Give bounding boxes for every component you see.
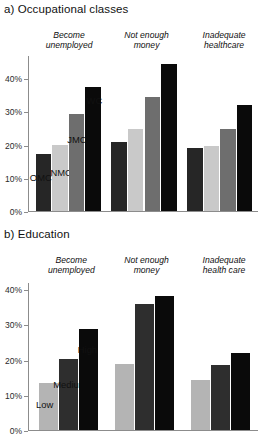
series-label-low: Low (36, 400, 53, 409)
y-axis-tick (24, 112, 28, 113)
bar-group (191, 283, 256, 430)
bar-jmc-0: JMC (69, 114, 84, 211)
bar-omc-1 (111, 142, 126, 211)
group-header: Become unemployed (30, 255, 112, 276)
bar-medium-0: Medium (59, 359, 78, 430)
bar-nmc-2 (204, 146, 219, 211)
y-axis-tick-label: 30% (5, 320, 22, 330)
bar-nmc-0: NMC (52, 145, 67, 211)
y-axis-tick (24, 179, 28, 180)
bar-low-1 (115, 364, 134, 430)
group-header: Not enough money (106, 255, 188, 276)
series-label-jmc: JMC (67, 135, 86, 144)
bar-high-0: High (79, 329, 98, 431)
bar-groups: LowMediumHigh (29, 283, 256, 430)
group-header: Inadequate health care (183, 255, 260, 276)
bar-groups: OMCNMCJMCWC (29, 56, 256, 211)
plot-area-b: 0%10%20%30%40%LowMediumHighBecome unempl… (28, 283, 256, 431)
y-axis-tick-label: 10% (5, 174, 22, 184)
y-axis-tick (24, 146, 28, 147)
bar-omc-2 (187, 148, 202, 211)
bar-low-2 (191, 380, 210, 430)
bar-medium-2 (211, 365, 230, 430)
series-label-wc: WC (87, 96, 103, 105)
y-axis-tick-label: 20% (5, 356, 22, 366)
y-axis-tick-label: 20% (5, 141, 22, 151)
x-axis-a (28, 211, 258, 212)
bar-jmc-2 (220, 129, 235, 211)
bar-omc-0: OMC (36, 154, 51, 211)
chart-panel-education: b) Education 0%10%20%30%40%LowMediumHigh… (0, 225, 260, 443)
panel-title-a: a) Occupational classes (4, 3, 128, 15)
x-axis-b (28, 430, 258, 431)
y-axis-tick (24, 79, 28, 80)
plot-area-a: 0%10%20%30%40%OMCNMCJMCWCBecome unemploy… (28, 56, 256, 212)
bar-high-2 (231, 353, 250, 430)
series-label-high: High (78, 345, 97, 354)
y-axis-tick (24, 361, 28, 362)
bar-jmc-1 (145, 97, 160, 211)
series-label-omc: OMC (30, 173, 52, 182)
y-axis-tick-label: 0% (10, 207, 22, 217)
group-header: Not enough money (106, 30, 188, 51)
y-axis-tick-label: 40% (5, 74, 22, 84)
bar-nmc-1 (128, 129, 143, 211)
group-header: Become unemployed (28, 30, 110, 51)
y-axis-tick (24, 325, 28, 326)
y-axis-tick-label: 0% (10, 426, 22, 436)
bar-group (111, 56, 180, 211)
y-axis-tick (24, 212, 28, 213)
y-axis-tick-label: 40% (5, 285, 22, 295)
bar-group: LowMediumHigh (39, 283, 104, 430)
bar-group (115, 283, 180, 430)
group-header: Inadequate healthcare (183, 30, 260, 51)
bar-wc-2 (237, 105, 252, 211)
bar-wc-1 (161, 64, 176, 211)
y-axis-tick-label: 10% (5, 391, 22, 401)
chart-panel-occupational-classes: a) Occupational classes 0%10%20%30%40%OM… (0, 0, 260, 225)
y-axis-tick (24, 431, 28, 432)
y-axis-tick (24, 290, 28, 291)
y-axis-tick-label: 30% (5, 107, 22, 117)
bar-high-1 (155, 296, 174, 430)
y-axis-tick (24, 396, 28, 397)
bar-medium-1 (135, 304, 154, 430)
bar-group (187, 56, 256, 211)
panel-title-b: b) Education (4, 228, 70, 240)
bar-wc-0: WC (85, 87, 100, 211)
bar-group: OMCNMCJMCWC (36, 56, 105, 211)
